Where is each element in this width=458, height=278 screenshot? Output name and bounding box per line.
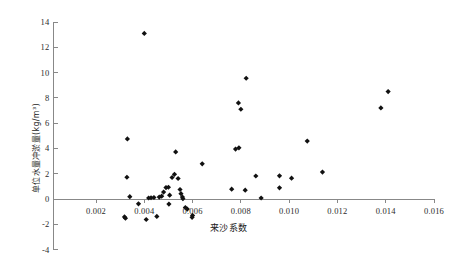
data-point bbox=[386, 89, 391, 94]
y-tick-label: 4 bbox=[45, 143, 49, 153]
data-point bbox=[166, 201, 171, 206]
y-tick-label: 8 bbox=[45, 93, 49, 103]
data-point bbox=[243, 188, 248, 193]
data-point bbox=[253, 173, 258, 178]
y-tick-label: 14 bbox=[41, 17, 50, 27]
tick-marks bbox=[54, 47, 435, 224]
data-point bbox=[124, 175, 129, 180]
data-point bbox=[289, 176, 294, 181]
y-tick-label: -2 bbox=[42, 219, 49, 229]
x-tick-label: 0.010 bbox=[279, 206, 299, 216]
data-point bbox=[277, 173, 282, 178]
data-point bbox=[320, 169, 325, 174]
x-tick-label: 0.008 bbox=[231, 206, 251, 216]
data-point bbox=[154, 214, 159, 219]
x-tick-label: 0.004 bbox=[134, 206, 154, 216]
x-tick-label: 0.016 bbox=[424, 206, 444, 216]
x-tick-label: 0.012 bbox=[327, 206, 347, 216]
y-tick-label: 12 bbox=[41, 42, 50, 52]
data-point bbox=[244, 76, 249, 81]
x-axis-title: 来沙系数 bbox=[210, 221, 248, 234]
data-point bbox=[173, 149, 178, 154]
y-tick-label: -4 bbox=[42, 245, 49, 255]
y-tick-label: 6 bbox=[45, 118, 49, 128]
x-tick-label: 0.014 bbox=[376, 206, 396, 216]
data-point bbox=[236, 100, 241, 105]
data-point bbox=[167, 193, 172, 198]
data-point bbox=[200, 161, 205, 166]
x-tick-label: 0.002 bbox=[86, 206, 106, 216]
scatter-chart: -4-202468101214 0.0020.0040.0060.0080.01… bbox=[0, 0, 458, 278]
data-point bbox=[378, 105, 383, 110]
data-point bbox=[144, 217, 149, 222]
data-point bbox=[259, 195, 264, 200]
data-point-markers bbox=[122, 31, 391, 222]
data-point bbox=[229, 187, 234, 192]
y-tick-label: 0 bbox=[45, 194, 49, 204]
data-point bbox=[277, 185, 282, 190]
data-point bbox=[142, 31, 147, 36]
plot-area bbox=[0, 0, 458, 278]
x-tick-label: 0.006 bbox=[183, 206, 203, 216]
data-point bbox=[125, 136, 130, 141]
y-axis-title: 单位水量冲淤量(kg/m³) bbox=[30, 103, 41, 193]
y-tick-label: 10 bbox=[41, 68, 50, 78]
data-point bbox=[175, 176, 180, 181]
y-tick-label: 2 bbox=[45, 169, 49, 179]
data-point bbox=[238, 107, 243, 112]
data-point bbox=[305, 138, 310, 143]
data-point bbox=[177, 187, 182, 192]
